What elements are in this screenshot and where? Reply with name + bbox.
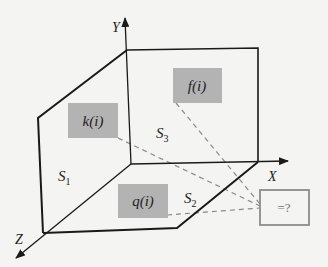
x-axis [131, 161, 288, 164]
svg-text:=?: =? [277, 200, 290, 215]
box-f: f(i) [173, 68, 222, 103]
z-axis [16, 164, 131, 258]
svg-text:S3: S3 [156, 125, 169, 144]
diagram-canvas: Y X Z S1 S2 S3 k(i) f(i) q(i) =? [0, 0, 328, 267]
surface-label-s2: S2 [184, 190, 197, 209]
y-axis [125, 18, 131, 164]
svg-text:k(i): k(i) [83, 113, 104, 130]
coordinate-diagram: Y X Z S1 S2 S3 k(i) f(i) q(i) =? [0, 0, 328, 267]
plane-s3 [127, 48, 258, 162]
x-axis-label: X [267, 169, 277, 184]
box-q: q(i) [118, 184, 168, 218]
svg-text:S2: S2 [184, 190, 197, 209]
svg-text:f(i): f(i) [188, 78, 206, 95]
box-result: =? [260, 190, 309, 225]
z-axis-label: Z [15, 232, 23, 247]
y-axis-label: Y [112, 20, 122, 35]
svg-text:q(i): q(i) [132, 193, 154, 210]
plane-s1 [38, 50, 127, 233]
svg-text:S1: S1 [58, 168, 71, 187]
surface-label-s1: S1 [58, 168, 71, 187]
connector-f [176, 103, 260, 204]
surface-label-s3: S3 [156, 125, 169, 144]
connector-q [167, 208, 260, 215]
box-k: k(i) [68, 103, 118, 138]
